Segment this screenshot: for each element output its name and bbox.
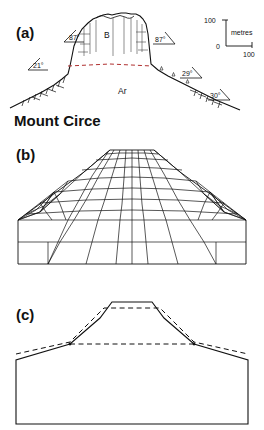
panel-c-figure: (c) bbox=[0, 272, 264, 430]
dip-label-21: 21° bbox=[33, 62, 44, 69]
unit-label-ar: Ar bbox=[118, 86, 127, 96]
dip-symbol-87-right: 87° bbox=[153, 32, 175, 44]
scale-label-vertical-top: 100 bbox=[204, 17, 216, 24]
basal-contact-dashed-line bbox=[68, 64, 152, 66]
dip-symbol-21: 21° bbox=[28, 58, 48, 70]
scale-label-horizontal-right: 100 bbox=[243, 51, 255, 58]
unit-label-b: B bbox=[104, 30, 110, 40]
crest-detail bbox=[96, 16, 134, 19]
panel-c: (c) bbox=[0, 272, 264, 430]
mountain-name-caption: Mount Circe bbox=[14, 112, 101, 129]
dip-label-87-left: 87° bbox=[69, 34, 80, 41]
panel-c-label: (c) bbox=[16, 306, 34, 323]
mesh-right-shoulder-cells bbox=[196, 181, 246, 220]
panel-a: (a) B Ar bbox=[0, 0, 264, 132]
panel-b-label: (b) bbox=[16, 146, 35, 163]
dip-label-87-right: 87° bbox=[155, 36, 166, 43]
original-profile-dashed bbox=[16, 308, 248, 354]
panel-a-label: (a) bbox=[16, 24, 34, 41]
scale-bar: 100 0 metres 100 bbox=[204, 17, 255, 58]
dip-symbol-30: 30° bbox=[208, 89, 230, 100]
scale-label-units: metres bbox=[231, 29, 253, 36]
dip-symbol-29: 29° bbox=[180, 67, 202, 78]
dip-label-30: 30° bbox=[210, 92, 221, 99]
panel-a-figure: (a) B Ar bbox=[0, 0, 264, 132]
panel-b: (b) bbox=[0, 132, 264, 272]
panel-b-figure: (b) bbox=[0, 132, 264, 272]
mesh-vertical-lines bbox=[18, 150, 246, 264]
scale-label-origin: 0 bbox=[216, 43, 220, 50]
joint-lines bbox=[84, 17, 142, 56]
dip-label-29: 29° bbox=[182, 70, 193, 77]
mesh-left-shoulder-cells bbox=[18, 181, 68, 220]
deformed-profile-solid bbox=[16, 302, 248, 424]
